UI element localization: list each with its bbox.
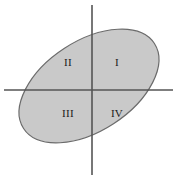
quadrant-3-label: III [62,107,74,119]
coordinate-plane-diagram: IIIIIIIV [0,0,177,180]
quadrant-2-label: II [64,56,72,68]
quadrant-1-label: I [115,56,119,68]
quadrant-4-label: IV [111,107,123,119]
figure-canvas: IIIIIIIV [0,0,177,180]
